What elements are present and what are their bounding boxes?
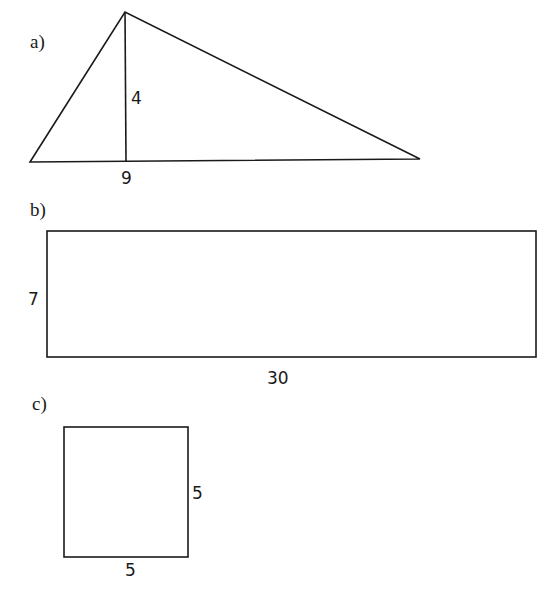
figure-b-rectangle: b) 7 30 bbox=[28, 199, 536, 388]
triangle-base-label: 9 bbox=[121, 168, 132, 188]
figure-c-square: c) 5 5 bbox=[32, 393, 203, 580]
triangle-height-label: 4 bbox=[131, 88, 142, 108]
rectangle-height-label: 7 bbox=[28, 289, 39, 309]
figure-a-label: a) bbox=[30, 31, 45, 53]
figure-c-label: c) bbox=[32, 393, 47, 415]
rectangle-width-label: 30 bbox=[267, 368, 289, 388]
triangle-altitude bbox=[125, 12, 126, 161]
geometry-figures: a) 4 9 b) 7 30 c) 5 5 bbox=[0, 0, 549, 597]
figure-a-triangle: a) 4 9 bbox=[30, 12, 420, 188]
square-base-label: 5 bbox=[125, 560, 136, 580]
figure-b-label: b) bbox=[30, 199, 46, 221]
square-side-label: 5 bbox=[192, 483, 203, 503]
rectangle-shape bbox=[47, 231, 536, 357]
square-shape bbox=[64, 427, 188, 557]
triangle-shape bbox=[30, 12, 420, 162]
